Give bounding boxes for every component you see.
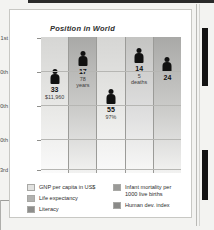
person-body <box>135 53 144 63</box>
person-icon <box>162 57 173 72</box>
person-body <box>107 94 116 104</box>
person-icon <box>77 51 88 66</box>
legend-label: Infant mortality per <box>125 184 171 190</box>
scan-dark-bar-lower <box>202 150 208 200</box>
value-label: 33 <box>40 85 70 94</box>
scan-page-edge-line-secondary <box>199 4 200 226</box>
legend-column-right: Infant mortality per 1000 live births Hu… <box>113 184 187 213</box>
legend-label-line2: 1000 live births <box>125 191 163 197</box>
chart-legend: GNP per capita in US$ Life expectancy Li… <box>27 184 187 213</box>
legend-swatch-infant-mortality <box>113 184 121 191</box>
legend-label: Human dev. index <box>125 202 170 209</box>
y-tick-150th: 150th <box>0 137 8 143</box>
legend-label: Literacy <box>39 206 59 213</box>
person-icon <box>134 48 145 63</box>
legend-swatch-literacy <box>27 206 35 213</box>
legend-item-literacy[interactable]: Literacy <box>27 206 105 213</box>
legend-label: GNP per capita in US$ <box>39 184 95 191</box>
scan-page-edge-line <box>196 4 197 226</box>
legend-item-infant-mortality[interactable]: Infant mortality per 1000 live births <box>113 184 187 198</box>
scan-dark-bar-upper <box>202 28 208 86</box>
value-sublabel: 97% <box>96 114 126 120</box>
gridline-150th <box>41 139 181 140</box>
y-tick-100th: 100th <box>0 103 8 109</box>
value-sublabel: $11,960 <box>40 94 70 100</box>
scan-corner-left <box>0 200 1 230</box>
gridline-193rd <box>41 169 181 170</box>
legend-column-left: GNP per capita in US$ Life expectancy Li… <box>27 184 105 213</box>
marker-human-dev-index: 24 <box>152 57 182 82</box>
person-body <box>50 74 59 84</box>
value-sublabel-unit: years <box>68 82 98 88</box>
legend-item-human-dev-index[interactable]: Human dev. index <box>113 202 187 209</box>
marker-life-expectancy: 17 78 years <box>68 51 98 88</box>
gridline-100th <box>41 105 181 106</box>
scan-edge-top <box>28 0 214 3</box>
y-tick-50th: 50th <box>0 69 8 75</box>
gridline-50th <box>41 71 181 72</box>
legend-swatch-human-dev-index <box>113 202 121 209</box>
marker-infant-mortality: 14 5 deaths <box>124 48 154 85</box>
plot-area: 33 $11,960 17 78 years <box>41 37 181 173</box>
legend-swatch-gnp-per-capita <box>27 184 35 191</box>
person-body <box>78 56 87 66</box>
value-label: 55 <box>96 105 126 114</box>
legend-item-gnp-per-capita[interactable]: GNP per capita in US$ <box>27 184 105 191</box>
chart-title: Position in World <box>50 24 115 33</box>
chart-card: Position in World 1st 50th 100th 150th 1… <box>9 9 192 218</box>
y-tick-193rd: 193rd <box>0 167 8 173</box>
value-sublabel-unit: deaths <box>124 79 154 85</box>
marker-gnp-per-capita: 33 $11,960 <box>40 69 70 100</box>
page-scan: Position in World 1st 50th 100th 150th 1… <box>0 0 214 230</box>
value-label: 24 <box>152 73 182 82</box>
person-icon <box>106 89 117 104</box>
legend-swatch-life-expectancy <box>27 195 35 202</box>
y-tick-1st: 1st <box>1 35 8 41</box>
legend-item-life-expectancy[interactable]: Life expectancy <box>27 195 105 202</box>
legend-label: Life expectancy <box>39 195 78 202</box>
